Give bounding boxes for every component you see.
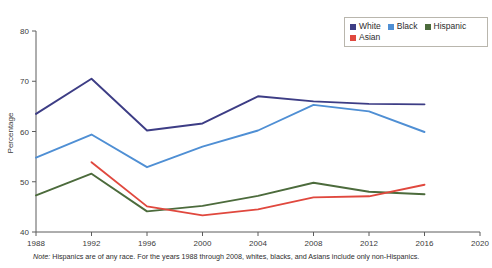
legend-item-white[interactable]: White bbox=[350, 21, 381, 32]
y-tick-label: 50 bbox=[20, 178, 29, 187]
x-tick-label: 2016 bbox=[416, 239, 434, 248]
x-tick-label: 2004 bbox=[249, 239, 267, 248]
x-tick-label: 1996 bbox=[138, 239, 156, 248]
legend-swatch-hispanic-icon bbox=[425, 24, 431, 30]
legend-row-primary: White Black Hispanic bbox=[350, 21, 482, 32]
legend-label-black: Black bbox=[397, 21, 418, 32]
footnote-note-prefix: Note: bbox=[33, 252, 50, 261]
series-line-black bbox=[36, 105, 425, 167]
legend-item-black[interactable]: Black bbox=[388, 21, 418, 32]
chart-figure: 4050607080 19881992199620002004200820122… bbox=[0, 0, 492, 268]
legend-label-white: White bbox=[359, 21, 381, 32]
x-tick-label: 1992 bbox=[83, 239, 101, 248]
y-axis: 4050607080 bbox=[20, 27, 36, 237]
x-tick-label: 2008 bbox=[305, 239, 323, 248]
y-tick-label: 60 bbox=[20, 128, 29, 137]
legend-item-hispanic[interactable]: Hispanic bbox=[425, 21, 467, 32]
y-tick-label: 80 bbox=[20, 27, 29, 36]
y-axis-title: Percentage bbox=[6, 112, 15, 153]
footnote-text: Hispanics are of any race. For the years… bbox=[50, 252, 419, 261]
legend-row-secondary: Asian bbox=[350, 32, 482, 43]
data-series-group bbox=[36, 79, 425, 216]
x-tick-label: 2012 bbox=[360, 239, 378, 248]
x-tick-label: 2000 bbox=[194, 239, 212, 248]
x-axis: 198819921996200020042008201220162020 bbox=[27, 232, 489, 248]
legend-swatch-asian-icon bbox=[350, 35, 356, 41]
y-tick-label: 70 bbox=[20, 77, 29, 86]
legend-item-asian[interactable]: Asian bbox=[350, 32, 380, 43]
chart-footnote: Note: Hispanics are of any race. For the… bbox=[33, 252, 483, 261]
series-line-hispanic bbox=[36, 174, 425, 212]
chart-legend: White Black Hispanic Asian bbox=[344, 17, 488, 47]
legend-label-hispanic: Hispanic bbox=[434, 21, 467, 32]
y-tick-label: 40 bbox=[20, 228, 29, 237]
series-line-white bbox=[36, 79, 425, 131]
legend-swatch-white-icon bbox=[350, 24, 356, 30]
legend-label-asian: Asian bbox=[359, 32, 380, 43]
x-tick-label: 1988 bbox=[27, 239, 45, 248]
legend-swatch-black-icon bbox=[388, 24, 394, 30]
x-tick-label: 2020 bbox=[471, 239, 489, 248]
